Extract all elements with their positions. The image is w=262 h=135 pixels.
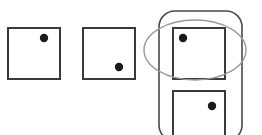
- square-3-dot: [179, 34, 187, 42]
- square-4-dot: [208, 102, 216, 110]
- figure-svg: [0, 0, 262, 135]
- square-group-4: [173, 91, 225, 135]
- square-1-dot: [40, 34, 48, 42]
- square-2: [83, 28, 135, 79]
- square-group-1: [8, 28, 60, 79]
- square-2-dot: [115, 63, 123, 71]
- square-group-3: [173, 28, 225, 79]
- square-group-2: [83, 28, 135, 79]
- square-4: [173, 91, 225, 135]
- square-1: [8, 28, 60, 79]
- diagram-canvas: [0, 0, 262, 135]
